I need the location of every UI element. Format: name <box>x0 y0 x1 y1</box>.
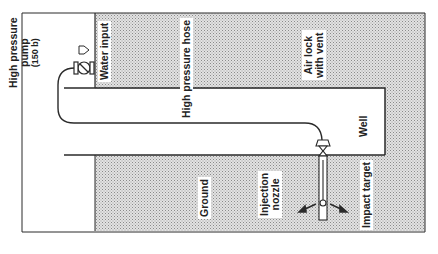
pump-label-line3: (150 b) <box>30 17 41 88</box>
well-label: Well <box>358 116 369 137</box>
water-input-arrow-icon <box>79 46 89 54</box>
water-input-label: Water input <box>98 21 111 82</box>
air-lock-label: Air lock with vent <box>302 30 326 80</box>
injection-nozzle-label: Injection nozzle <box>258 171 282 218</box>
ground-label: Ground <box>198 177 211 219</box>
well-cavity <box>95 89 385 155</box>
impact-target-label: Impact target <box>360 160 373 230</box>
nozzle-label-line2: nozzle <box>270 173 281 216</box>
pump-icon <box>74 62 94 74</box>
air-lock-label-line2: with vent <box>314 32 325 78</box>
pump-label: High pressure pump (150 b) <box>8 17 41 88</box>
pump-label-line2: pump <box>19 17 30 88</box>
hose-label: High pressure hose <box>180 18 193 120</box>
